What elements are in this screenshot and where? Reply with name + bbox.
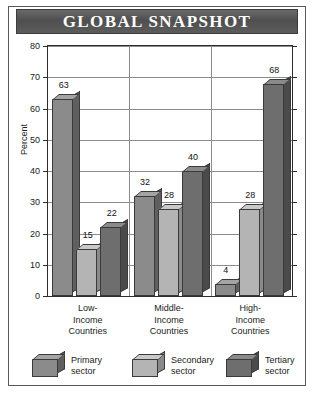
- legend-label-line1: Secondary: [171, 355, 214, 366]
- y-axis-tick-right: [292, 171, 297, 172]
- y-axis-tick-right: [292, 296, 297, 297]
- x-axis-label-line: Low-: [47, 303, 129, 315]
- legend-swatch-icon: [226, 359, 252, 377]
- y-axis-tick: [43, 77, 48, 78]
- y-axis-tick-right: [292, 265, 297, 266]
- legend-item-secondary-sector[interactable]: Secondarysector: [132, 354, 214, 377]
- x-axis-label-0: Low-IncomeCountries: [47, 303, 129, 338]
- y-axis-tick-right: [292, 46, 297, 47]
- legend-label-line2: sector: [265, 366, 295, 377]
- bar-front-face: [263, 84, 284, 297]
- legend-label-line1: Tertiary: [265, 355, 295, 366]
- y-axis-tick-right: [292, 77, 297, 78]
- bar-front-face: [100, 227, 121, 296]
- legend-label: Primarysector: [71, 355, 102, 377]
- y-axis-tick: [43, 46, 48, 47]
- global-snapshot-figure: GLOBAL SNAPSHOT Percent 0102030405060708…: [0, 0, 314, 393]
- bar-front-face: [215, 284, 236, 297]
- bar-primary-sector-2: 4: [215, 284, 236, 297]
- bar-value-label: 15: [83, 230, 93, 240]
- bar-primary-sector-1: 32: [134, 196, 155, 296]
- legend-swatch-face-face: [226, 359, 252, 377]
- gridline: [48, 46, 292, 47]
- bar-value-label: 32: [140, 177, 150, 187]
- legend-label-line2: sector: [71, 366, 102, 377]
- bar-secondary-sector-1: 28: [158, 209, 179, 297]
- x-axis-label-line: Income: [209, 315, 291, 327]
- bar-front-face: [52, 99, 73, 296]
- y-axis-tick-right: [292, 109, 297, 110]
- y-axis-tick-label: 70: [30, 72, 40, 82]
- y-axis-tick: [43, 140, 48, 141]
- bar-secondary-sector-2: 28: [239, 209, 260, 297]
- bar-front-face: [239, 209, 260, 297]
- bar-value-label: 4: [223, 265, 228, 275]
- bar-front-face: [158, 209, 179, 297]
- y-axis-tick-label: 40: [30, 166, 40, 176]
- bar-front-face: [182, 171, 203, 296]
- plot-area: 0102030405060708063152232284042868: [47, 45, 293, 297]
- x-axis-label-line: Income: [128, 315, 210, 327]
- bar-side-face: [284, 75, 291, 292]
- x-axis-label-line: High-: [209, 303, 291, 315]
- y-axis-tick: [43, 109, 48, 110]
- x-axis-label-line: Countries: [128, 326, 210, 338]
- y-axis-tick-right: [292, 140, 297, 141]
- bar-value-label: 28: [164, 190, 174, 200]
- y-axis-tick-label: 30: [30, 197, 40, 207]
- x-axis-label-1: Middle-IncomeCountries: [128, 303, 210, 338]
- bar-front-face: [76, 249, 97, 296]
- bar-side-face: [121, 219, 128, 292]
- y-axis-tick-label: 50: [30, 135, 40, 145]
- bar-value-label: 22: [107, 208, 117, 218]
- gridline: [48, 171, 292, 172]
- legend-item-primary-sector[interactable]: Primarysector: [32, 354, 102, 377]
- x-axis-label-line: Income: [47, 315, 129, 327]
- page-title: GLOBAL SNAPSHOT: [63, 12, 252, 32]
- x-axis-label-2: High-IncomeCountries: [209, 303, 291, 338]
- y-axis-tick-label: 10: [30, 260, 40, 270]
- gridline: [48, 77, 292, 78]
- y-axis-tick-label: 60: [30, 104, 40, 114]
- legend-label: Secondarysector: [171, 355, 214, 377]
- x-axis-label-line: Countries: [209, 326, 291, 338]
- bar-value-label: 40: [188, 152, 198, 162]
- legend-item-tertiary-sector[interactable]: Tertiarysector: [226, 354, 295, 377]
- bar-tertiary-sector-2: 68: [263, 84, 284, 297]
- chart-legend: PrimarysectorSecondarysectorTertiarysect…: [8, 350, 306, 386]
- y-axis-tick-label: 80: [30, 41, 40, 51]
- bar-tertiary-sector-1: 40: [182, 171, 203, 296]
- bar-value-label: 28: [245, 190, 255, 200]
- bar-tertiary-sector-0: 22: [100, 227, 121, 296]
- chart-title-banner: GLOBAL SNAPSHOT: [16, 9, 298, 34]
- bar-front-face: [134, 196, 155, 296]
- legend-swatch-icon: [32, 359, 58, 377]
- y-axis-tick: [43, 265, 48, 266]
- x-axis-label-line: Countries: [47, 326, 129, 338]
- group-separator: [211, 46, 212, 296]
- y-axis-tick-right: [292, 234, 297, 235]
- legend-swatch-face-face: [32, 359, 58, 377]
- legend-swatch-icon: [132, 359, 158, 377]
- x-axis-label-line: Middle-: [128, 303, 210, 315]
- y-axis-title: Percent: [19, 124, 29, 155]
- y-axis-tick: [43, 202, 48, 203]
- x-axis-category-labels: Low-IncomeCountriesMiddle-IncomeCountrie…: [47, 303, 293, 345]
- gridline: [48, 140, 292, 141]
- y-axis-tick: [43, 296, 48, 297]
- legend-label-line2: sector: [171, 366, 214, 377]
- y-axis-tick-label: 0: [35, 291, 40, 301]
- legend-label-line1: Primary: [71, 355, 102, 366]
- y-axis-tick: [43, 171, 48, 172]
- legend-label: Tertiarysector: [265, 355, 295, 377]
- y-axis-tick-right: [292, 202, 297, 203]
- bar-secondary-sector-0: 15: [76, 249, 97, 296]
- bar-value-label: 63: [59, 80, 69, 90]
- legend-swatch-face-face: [132, 359, 158, 377]
- y-axis-tick-label: 20: [30, 229, 40, 239]
- y-axis-tick: [43, 234, 48, 235]
- bar-side-face: [203, 163, 210, 292]
- bar-primary-sector-0: 63: [52, 99, 73, 296]
- gridline: [48, 109, 292, 110]
- group-separator: [129, 46, 130, 296]
